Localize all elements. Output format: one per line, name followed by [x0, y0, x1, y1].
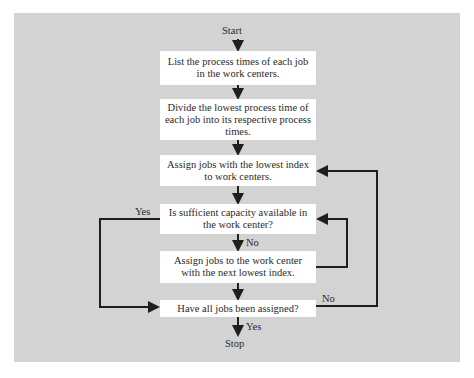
step-assign-lowest-index: Assign jobs with the lowest index to wor…	[160, 155, 316, 186]
decision-sufficient-capacity: Is sufficient capacity available in the …	[160, 204, 316, 234]
stop-terminal: Stop	[225, 338, 244, 350]
step-assign-next-lowest: Assign jobs to the work center with the …	[160, 251, 316, 283]
label-capacity-yes: Yes	[135, 206, 150, 218]
step-text: Have all jobs been assigned?	[177, 303, 298, 315]
label-capacity-no: No	[246, 237, 259, 249]
step-text: Assign jobs to the work center with the …	[164, 255, 312, 279]
step-text: Assign jobs with the lowest index to wor…	[164, 159, 312, 183]
step-text: List the process times of each job in th…	[164, 56, 312, 80]
step-text: Divide the lowest process time of each j…	[164, 102, 312, 138]
decision-all-jobs-assigned: Have all jobs been assigned?	[160, 300, 316, 317]
label-all-assigned-no: No	[322, 293, 335, 305]
step-text: Is sufficient capacity available in the …	[164, 207, 312, 231]
start-terminal: Start	[222, 25, 242, 37]
step-divide-lowest-time: Divide the lowest process time of each j…	[160, 99, 316, 140]
step-list-process-times: List the process times of each job in th…	[160, 51, 316, 85]
label-all-assigned-yes: Yes	[246, 321, 261, 333]
